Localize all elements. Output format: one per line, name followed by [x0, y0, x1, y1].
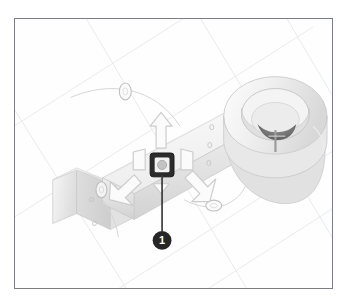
gizmo-center-handle[interactable]: [150, 153, 174, 177]
arrow-stub-right-icon[interactable]: [181, 149, 193, 170]
rotate-handle-left[interactable]: [96, 182, 107, 198]
cylindrical-boss: [224, 77, 327, 204]
callout-badge-number: 1: [159, 234, 165, 246]
cad-viewport[interactable]: 1: [15, 19, 332, 288]
rotate-handle-top[interactable]: [119, 83, 131, 100]
figure-frame: 1: [14, 18, 333, 289]
arrow-stub-left-icon[interactable]: [133, 149, 145, 170]
